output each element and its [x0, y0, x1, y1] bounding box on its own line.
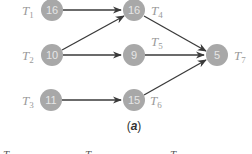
next-figure-partial-label: T	[3, 148, 10, 154]
task-node-t7: 5 T7	[206, 44, 246, 66]
task-label-t3: T3	[22, 93, 34, 110]
task-node-t1: T1 16	[22, 0, 63, 21]
task-weight-t6: 15	[128, 94, 140, 106]
task-label-t4: T4	[151, 3, 163, 20]
figure-caption: (a)	[127, 119, 142, 133]
task-label-t7: T7	[234, 48, 246, 65]
task-weight-t2: 10	[46, 49, 58, 61]
task-label-t1: T1	[22, 3, 34, 20]
task-weight-t1: 16	[46, 4, 58, 16]
task-weight-t4: 16	[128, 4, 140, 16]
edge-t6-t7	[144, 60, 206, 95]
task-weight-t3: 11	[45, 94, 56, 106]
task-node-t4: 16 T4	[123, 0, 163, 21]
task-graph-diagram: T1 16 T2 10 T3 11 16 T4 9 T5 15 T6 5 T7 …	[0, 0, 252, 154]
edge-t2-t4	[62, 16, 124, 50]
task-weight-t7: 5	[214, 49, 220, 61]
task-node-t2: T2 10	[22, 44, 63, 66]
task-label-t5: T5	[151, 34, 163, 51]
next-figure-partial-label: T	[170, 148, 177, 154]
task-node-t5: 9 T5	[123, 34, 163, 66]
task-label-t2: T2	[22, 48, 34, 65]
next-figure-partial-label: T	[85, 148, 92, 154]
task-node-t6: 15 T6	[123, 89, 162, 111]
task-label-t6: T6	[150, 93, 162, 110]
task-weight-t5: 9	[131, 49, 137, 61]
task-node-t3: T3 11	[22, 89, 62, 111]
